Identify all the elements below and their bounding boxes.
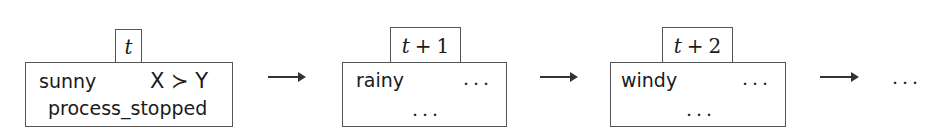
ellipsis-line1: ... [742,69,772,88]
time-label-t-plus-1: t + 1 [390,27,461,63]
time-offset: 2 [709,34,722,58]
right-arrow-icon [298,72,306,82]
state-box-t-plus-1: rainy ... ... [342,62,507,127]
right-arrow-icon [851,72,859,82]
arrow-shaft [540,76,572,78]
transition-arrow-1 [268,71,306,83]
arrow-shaft [820,76,853,78]
time-op: + [687,34,704,58]
arrow-shaft [268,76,300,78]
state-box-t: sunny X ≻ Y process_stopped [25,62,233,127]
time-label-t-plus-2: t + 2 [662,27,733,63]
time-var: t [402,34,410,58]
proposition-rainy: rainy [356,71,404,90]
time-var: t [124,35,132,59]
time-op: + [415,34,432,58]
proposition-process-stopped: process_stopped [48,99,207,118]
transition-arrow-2 [540,71,578,83]
proposition-x-succ-y: X ≻ Y [150,71,208,92]
transition-arrow-3 [820,71,859,83]
ellipsis-line1: ... [463,69,493,88]
state-box-t-plus-2: windy ... ... [610,62,786,127]
time-label-t: t [115,29,142,63]
ellipsis-line2: ... [412,100,442,119]
time-var: t [674,34,682,58]
time-offset: 1 [437,34,450,58]
proposition-windy: windy [621,71,677,90]
right-arrow-icon [570,72,578,82]
ellipsis-line2: ... [686,100,716,119]
proposition-sunny: sunny [39,72,96,91]
continuation-ellipsis: ... [892,68,922,87]
